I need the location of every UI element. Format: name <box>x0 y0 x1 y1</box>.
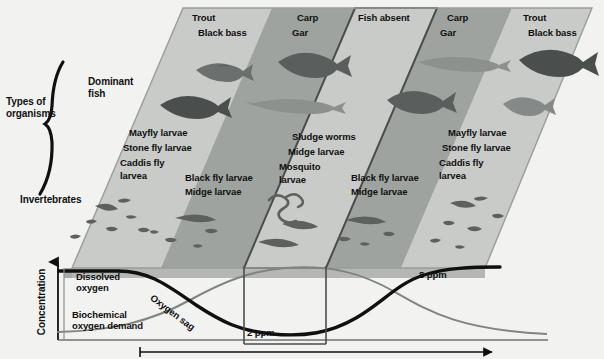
dominant-fish-label: Dominant fish <box>88 76 150 100</box>
zone-recovery-fish-2: Gar <box>440 27 456 38</box>
zone-clean-upstream-invert-4: larvea <box>120 170 147 181</box>
zone-clean-upstream-invert-3: Caddis fly <box>120 157 164 168</box>
river-oxygen-sag-diagram: Types of organisms Dominant fish Inverte… <box>0 0 604 359</box>
zone-recovery-invert-2: Midge larvae <box>351 186 407 197</box>
zone-clean-upstream-fish-1: Trout <box>192 12 215 23</box>
zone-decomposition-invert-1: Black fly larvae <box>185 172 253 183</box>
recovered-do-annotation: 8 ppm <box>419 269 446 280</box>
zone-clean-downstream-fish-2: Black bass <box>528 27 577 38</box>
types-of-organisms-label: Types of organisms <box>6 96 68 120</box>
concentration-axis-label: Concentration <box>36 256 48 348</box>
zone-decomposition-fish-1: Carp <box>297 12 318 23</box>
zone-septic-invert-3: Mosquito <box>279 161 320 172</box>
zone-septic-fish-absent: Fish absent <box>358 12 410 23</box>
zone-clean-downstream-invert-1: Mayfly larvae <box>448 127 506 138</box>
zone-recovery-fish-1: Carp <box>447 12 468 23</box>
invertebrates-label: Invertebrates <box>20 194 100 206</box>
zone-septic-invert-4: larvae <box>279 174 306 185</box>
zone-clean-downstream-invert-3: Caddis fly <box>439 157 483 168</box>
zone-septic-invert-1: Sludge worms <box>292 131 356 142</box>
zone-clean-downstream-fish-1: Trout <box>523 12 546 23</box>
zone-clean-downstream-invert-4: larvea <box>439 170 466 181</box>
zone-clean-upstream-invert-2: Stone fly larvae <box>123 142 192 153</box>
zone-recovery-invert-1: Black fly larvae <box>351 172 419 183</box>
biochemical-oxygen-demand-label: Biochemical oxygen demand <box>72 309 143 331</box>
zone-septic-invert-2: Midge larvae <box>288 146 344 157</box>
zone-clean-downstream-invert-2: Stone fly larvae <box>442 142 511 153</box>
zone-decomposition-invert-2: Midge larvae <box>185 186 241 197</box>
types-of-organisms-bracket <box>40 62 63 194</box>
zone-clean-upstream-invert-1: Mayfly larvae <box>129 127 187 138</box>
zone-clean-upstream-fish-2: Black bass <box>198 27 247 38</box>
minimum-do-annotation: 2 ppm <box>247 327 274 338</box>
dissolved-oxygen-label: Dissolved oxygen <box>76 271 120 293</box>
zone-decomposition-fish-2: Gar <box>292 27 308 38</box>
